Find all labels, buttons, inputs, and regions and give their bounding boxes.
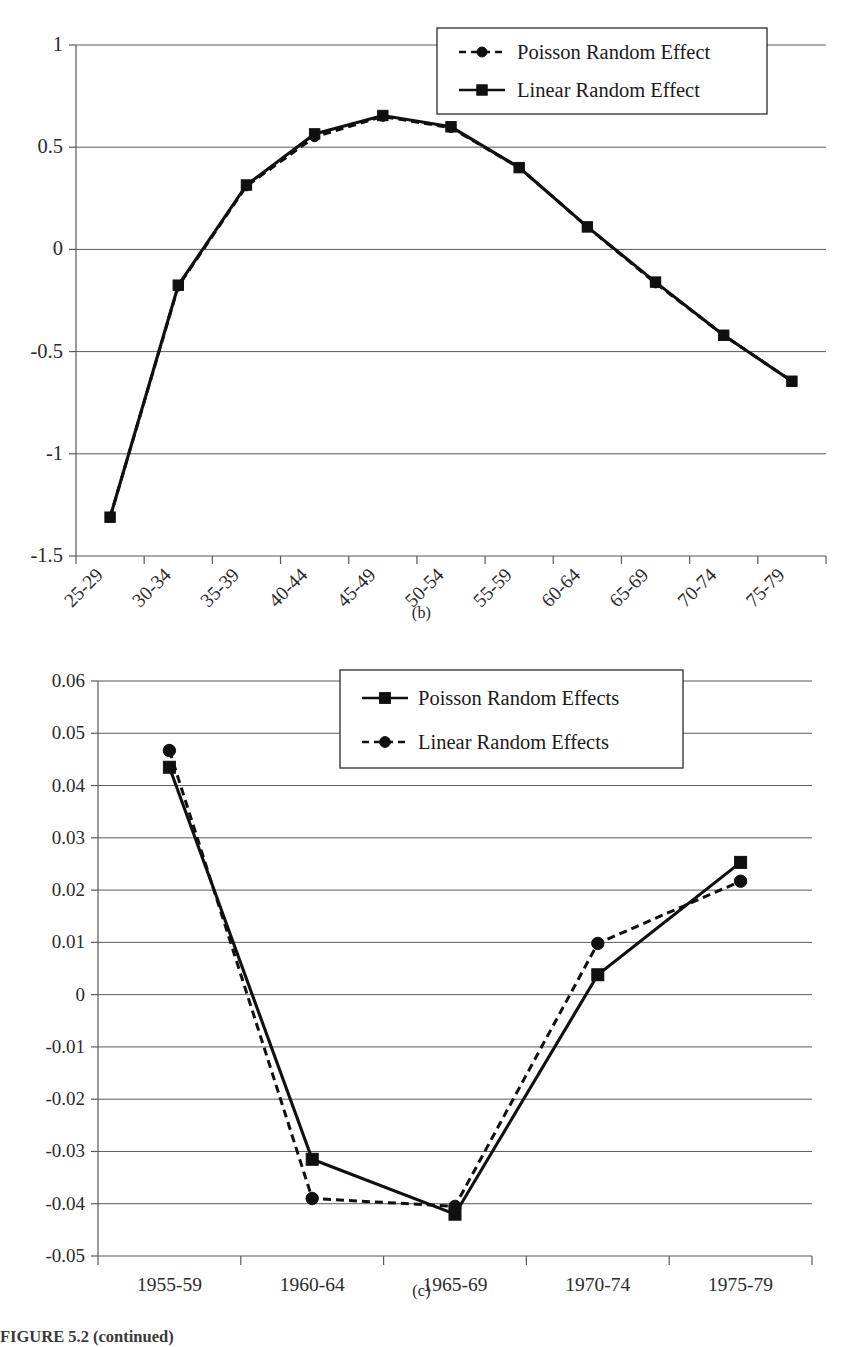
panel-caption-c: (c)	[0, 1282, 843, 1300]
y-tick-label: 0.02	[52, 879, 85, 900]
data-point-square	[173, 280, 183, 290]
panel-caption-b: (b)	[0, 604, 843, 622]
y-tick-label: -0.5	[31, 340, 63, 362]
figure-caption: FIGURE 5.2 (continued)	[0, 1326, 500, 1347]
data-point-square	[719, 330, 729, 340]
y-tick-label: 0.05	[52, 722, 85, 743]
legend-label: Poisson Random Effects	[418, 687, 619, 709]
y-tick-label: -0.02	[45, 1088, 85, 1109]
data-point-square	[787, 376, 797, 386]
y-tick-label: 0	[53, 237, 63, 259]
chart-c-canvas: 0.060.050.040.030.020.010-0.01-0.02-0.03…	[0, 648, 843, 1308]
y-axis-labels: 0.060.050.040.030.020.010-0.01-0.02-0.03…	[45, 670, 85, 1266]
figure-page: 10.50-0.5-1-1.525-2930-3435-3940-4445-49…	[0, 0, 843, 1347]
legend-label: Poisson Random Effect	[517, 41, 711, 63]
y-tick-label: -0.04	[45, 1193, 85, 1214]
data-point-square	[446, 122, 456, 132]
data-point-square	[241, 180, 251, 190]
chart-panel-c: 0.060.050.040.030.020.010-0.01-0.02-0.03…	[0, 648, 843, 1308]
data-point-square	[477, 85, 487, 95]
data-point-circle	[592, 937, 604, 949]
legend-label: Linear Random Effect	[517, 79, 700, 101]
y-tick-label: 0.04	[52, 775, 86, 796]
y-tick-label: 0.5	[37, 135, 63, 157]
data-point-circle	[306, 1192, 318, 1204]
data-point-square	[514, 162, 524, 172]
y-tick-label: 0	[76, 984, 86, 1005]
y-tick-label: -0.05	[45, 1245, 85, 1266]
data-point-square	[378, 110, 388, 120]
data-point-square	[105, 512, 115, 522]
chart-b-canvas: 10.50-0.5-1-1.525-2930-3435-3940-4445-49…	[0, 0, 843, 640]
data-point-square	[582, 222, 592, 232]
y-tick-label: -1	[46, 442, 63, 464]
y-axis-labels: 10.50-0.5-1-1.5	[31, 33, 63, 566]
y-tick-label: 0.06	[52, 670, 85, 691]
series-2	[163, 744, 747, 1212]
data-point-square	[650, 277, 660, 287]
y-tick-label: 0.01	[52, 931, 85, 952]
series-line	[110, 117, 792, 518]
series-line	[169, 767, 740, 1214]
data-point-square	[735, 856, 747, 868]
series-1	[105, 112, 796, 522]
data-point-square	[380, 693, 391, 704]
legend-label: Linear Random Effects	[418, 731, 609, 753]
y-tick-label: -1.5	[31, 544, 63, 566]
series-line	[169, 751, 740, 1207]
data-point-square	[309, 129, 319, 139]
data-point-circle	[380, 737, 391, 748]
data-point-square	[592, 969, 604, 981]
data-point-circle	[734, 875, 746, 887]
x-ticks	[76, 556, 826, 564]
data-point-circle	[163, 744, 175, 756]
chart-c-legend: Poisson Random EffectsLinear Random Effe…	[340, 670, 683, 768]
x-ticks	[98, 1256, 812, 1265]
y-tick-label: 0.03	[52, 827, 85, 848]
y-tick-label: -0.01	[45, 1036, 85, 1057]
series-2	[105, 110, 797, 522]
chart-b-legend: Poisson Random EffectLinear Random Effec…	[437, 28, 767, 114]
series-line	[110, 116, 792, 518]
data-point-circle	[477, 47, 487, 57]
data-point-circle	[449, 1200, 461, 1212]
y-tick-label: -0.03	[45, 1140, 85, 1161]
data-point-square	[306, 1153, 318, 1165]
legend-box	[340, 670, 683, 768]
chart-panel-b: 10.50-0.5-1-1.525-2930-3435-3940-4445-49…	[0, 0, 843, 640]
y-tick-label: 1	[53, 33, 63, 55]
